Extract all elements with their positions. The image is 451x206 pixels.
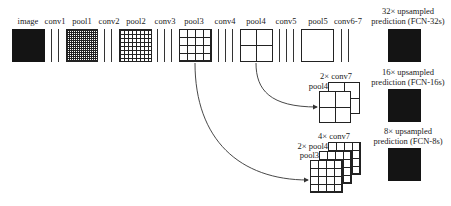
pool4-skip-arrow (256, 63, 317, 107)
pool3-skip-arrow (195, 63, 308, 180)
skip-arrows (0, 0, 451, 206)
fcn-diagram: image conv1 pool1 conv2 pool2 conv3 pool… (0, 0, 451, 206)
